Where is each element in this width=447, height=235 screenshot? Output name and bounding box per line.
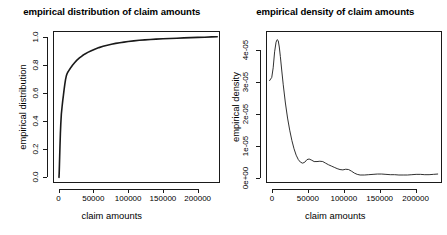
y-axis-tick [43,121,47,122]
y-axis-tick [43,177,47,178]
y-axis-tick-label: 2e-05 [240,104,249,124]
plot-area-density [266,31,442,183]
x-axis-tick-label: 50000 [82,194,104,203]
x-axis-tick-label: 150000 [150,194,177,203]
y-axis-tick [43,37,47,38]
x-axis-tick-label: 200000 [184,194,211,203]
y-axis-tick [256,82,260,83]
y-axis-tick [256,146,260,147]
chart-title-density: empirical density of claim amounts [224,6,447,17]
y-axis-tick-label: 0e+00 [240,167,249,189]
y-axis-tick-label: 1e-05 [240,136,249,156]
ecdf-curve [53,31,220,183]
x-axis-tick-label: 0 [270,194,274,203]
y-axis-tick [256,50,260,51]
x-axis-tick [59,189,60,193]
y-axis-tick-label: 0.4 [31,116,40,127]
panel-empirical-density: empirical density of claim amounts 05000… [224,0,447,235]
y-axis-tick-label: 0.0 [31,172,40,183]
x-axis-label-ecdf: claim amounts [0,210,224,221]
panel-empirical-distribution: empirical distribution of claim amounts … [0,0,224,235]
y-axis-label-ecdf: empirical distribution [17,64,28,149]
y-axis-tick [43,93,47,94]
x-axis-tick [198,189,199,193]
x-axis-tick-label: 100000 [115,194,142,203]
x-axis-tick [344,189,345,193]
y-axis-tick-label: 1.0 [31,31,40,42]
x-axis-tick-label: 50000 [297,194,319,203]
y-axis-line [260,50,261,178]
y-axis-tick-label: 3e-05 [240,72,249,92]
y-axis-line [47,37,48,178]
plot-area-ecdf [53,31,220,183]
x-axis-tick-label: 200000 [402,194,429,203]
x-axis-tick [272,189,273,193]
y-axis-tick [256,178,260,179]
y-axis-tick-label: 0.2 [31,144,40,155]
y-axis-tick [43,65,47,66]
x-axis-tick-label: 100000 [330,194,357,203]
x-axis-tick [380,189,381,193]
x-axis-tick [416,189,417,193]
y-axis-label-density: empirical density [229,72,240,142]
x-axis-tick [308,189,309,193]
chart-title-ecdf: empirical distribution of claim amounts [0,6,224,17]
y-axis-tick [256,114,260,115]
x-axis-tick [93,189,94,193]
figure-container: empirical distribution of claim amounts … [0,0,447,235]
y-axis-tick [43,149,47,150]
y-axis-tick-label: 0.8 [31,59,40,70]
y-axis-tick-label: 4e-05 [240,40,249,60]
x-axis-label-density: claim amounts [224,210,447,221]
x-axis-tick [128,189,129,193]
x-axis-tick [163,189,164,193]
y-axis-tick-label: 0.6 [31,87,40,98]
density-curve [266,31,442,183]
x-axis-tick-label: 150000 [366,194,393,203]
x-axis-tick-label: 0 [56,194,60,203]
